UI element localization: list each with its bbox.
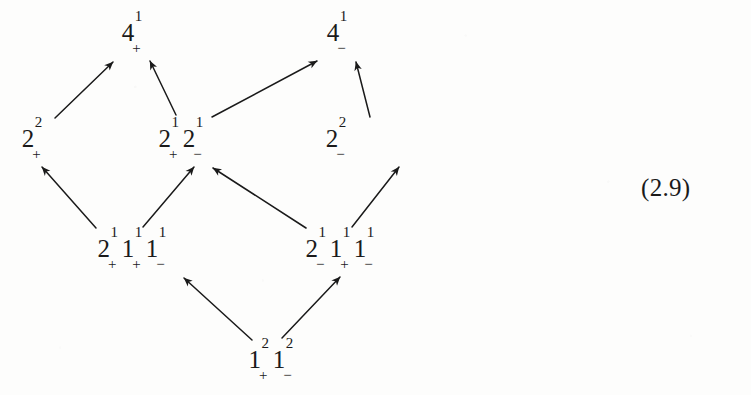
term-subscript: − [337, 40, 346, 56]
edge-low-left-to-2sq-plus [42, 167, 96, 228]
node-2sq-minus-term-0: 22− [326, 126, 349, 156]
edge-low-left-to-2plus2minus [143, 167, 194, 227]
term-superscript: 1 [135, 8, 143, 24]
term-subscript: + [169, 146, 178, 162]
term-superscript: 1 [159, 224, 167, 240]
term-subscript: + [132, 256, 141, 272]
edge-2plus2minus-to-4-minus [212, 61, 317, 117]
term-superscript: 1 [110, 224, 118, 240]
node-1sq-plus-1sq-minus-term-1: 12− [273, 347, 296, 377]
term-superscript: 1 [135, 224, 143, 240]
node-2minus-1plus-1minus: 21−11+11− [305, 236, 376, 266]
equation-number: (2.9) [641, 175, 690, 200]
node-4-minus: 41− [327, 20, 350, 50]
term-subscript: + [132, 40, 141, 56]
term-subscript: − [316, 256, 325, 272]
edge-2sq-minus-to-4-minus [356, 62, 370, 117]
node-2sq-minus: 22− [326, 126, 349, 156]
node-2plus-1plus-1minus-term-1: 11+ [122, 236, 145, 266]
node-2plus-1plus-1minus: 21+11+11− [97, 236, 168, 266]
node-4-plus-term-0: 41+ [122, 20, 145, 50]
node-2minus-1plus-1minus-term-0: 21− [305, 236, 328, 266]
term-subscript: − [283, 367, 292, 383]
term-superscript: 1 [172, 114, 180, 130]
term-subscript: − [364, 256, 373, 272]
node-2sq-plus-term-0: 22+ [22, 126, 45, 156]
figure-canvas: 41+41−22+21+21−22−21+11+11−21−11+11−12+1… [0, 0, 751, 395]
edge-2plus2minus-to-4-plus [150, 61, 176, 115]
term-subscript: + [259, 367, 268, 383]
term-superscript: 2 [262, 335, 270, 351]
term-subscript: + [108, 256, 117, 272]
term-subscript: − [156, 256, 165, 272]
edge-low-right-to-2sq-minus [352, 167, 399, 227]
term-superscript: 1 [318, 224, 326, 240]
node-4-minus-term-0: 41− [327, 20, 350, 50]
edge-2sq-plus-to-4-plus [55, 62, 113, 118]
node-4-plus: 41+ [122, 20, 145, 50]
term-superscript: 2 [35, 114, 43, 130]
term-superscript: 1 [343, 224, 351, 240]
edge-low-right-to-2plus2minus [213, 168, 306, 228]
edge-bottom-to-low-right [282, 277, 340, 338]
term-subscript: + [340, 256, 349, 272]
term-superscript: 2 [339, 114, 347, 130]
term-superscript: 2 [286, 335, 294, 351]
node-2plus-1plus-1minus-term-0: 21+ [97, 236, 120, 266]
node-2plus-2minus-term-1: 21− [183, 126, 206, 156]
term-superscript: 1 [196, 114, 204, 130]
term-superscript: 1 [367, 224, 375, 240]
term-subscript: − [336, 146, 345, 162]
term-subscript: + [32, 146, 41, 162]
edge-bottom-to-low-left [184, 278, 252, 340]
node-2minus-1plus-1minus-term-2: 11− [354, 236, 377, 266]
node-1sq-plus-1sq-minus: 12+12− [249, 347, 296, 377]
node-2plus-1plus-1minus-term-2: 11− [146, 236, 169, 266]
node-2plus-2minus-term-0: 21+ [159, 126, 182, 156]
node-2minus-1plus-1minus-term-1: 11+ [330, 236, 353, 266]
arrow-layer [0, 0, 751, 395]
node-2sq-plus: 22+ [22, 126, 45, 156]
term-subscript: − [193, 146, 202, 162]
node-2plus-2minus: 21+21− [159, 126, 206, 156]
edges-group [42, 61, 399, 340]
term-superscript: 1 [340, 8, 348, 24]
node-1sq-plus-1sq-minus-term-0: 12+ [249, 347, 272, 377]
